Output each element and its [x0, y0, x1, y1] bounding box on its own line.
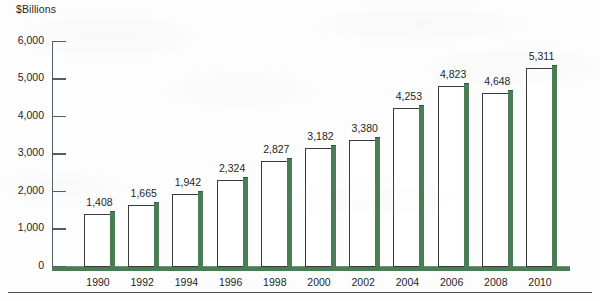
bar-item: 2,324 — [217, 42, 248, 267]
y-axis-tick: 2,000 — [52, 191, 66, 192]
y-axis-tick: 5,000 — [52, 78, 66, 79]
bar-value-label: 2,827 — [263, 143, 289, 155]
x-axis-label: 2010 — [528, 276, 551, 288]
bar-item: 4,648 — [482, 42, 513, 267]
chart-screenshot: $Billions 01,0002,0003,0004,0005,0006,00… — [0, 0, 600, 301]
bar-body — [482, 93, 508, 267]
x-axis-label: 1992 — [131, 276, 154, 288]
y-axis-tick-label: 5,000 — [18, 71, 44, 83]
y-axis-tick: 6,000 — [52, 41, 66, 42]
bar-shadow — [110, 211, 115, 267]
bar-body — [128, 205, 154, 267]
bar-shadow — [508, 90, 513, 267]
y-axis-tick: 0 — [52, 266, 66, 267]
bar-value-label: 5,311 — [529, 50, 555, 62]
bar-value-label: 4,823 — [440, 68, 466, 80]
y-axis-tick-label: 1,000 — [18, 221, 44, 233]
bar-item: 1,665 — [128, 42, 159, 267]
y-axis-tick-label: 6,000 — [18, 34, 44, 46]
bar-value-label: 2,324 — [219, 162, 245, 174]
bar-value-label: 3,380 — [352, 122, 378, 134]
y-axis-tick-label: 0 — [38, 259, 44, 271]
bar-body — [393, 108, 419, 267]
bar-item: 2,827 — [261, 42, 292, 267]
x-axis-label: 1990 — [86, 276, 109, 288]
bar-body — [172, 194, 198, 267]
bar-item: 5,311 — [526, 42, 557, 267]
x-axis-label: 2008 — [484, 276, 507, 288]
plot-area: 01,0002,0003,0004,0005,0006,000 1,4081,6… — [52, 42, 570, 267]
bar-item: 3,380 — [349, 42, 380, 267]
x-axis-baseline — [52, 267, 570, 271]
bar-item: 1,408 — [84, 42, 115, 267]
x-axis-label: 1994 — [175, 276, 198, 288]
bar-item: 3,182 — [305, 42, 336, 267]
x-axis-label: 2006 — [440, 276, 463, 288]
bar-shadow — [552, 65, 557, 267]
bar-body — [84, 214, 110, 267]
bar-item: 4,823 — [438, 42, 469, 267]
bar-shadow — [198, 191, 203, 267]
bar-body — [305, 148, 331, 267]
bar-shadow — [419, 105, 424, 267]
y-axis-title: $Billions — [16, 3, 56, 15]
bar-value-label: 4,253 — [396, 90, 422, 102]
y-axis-tick: 1,000 — [52, 228, 66, 229]
bar-body — [349, 140, 375, 267]
bar-item: 1,942 — [172, 42, 203, 267]
bar-body — [261, 161, 287, 267]
bar-body — [217, 180, 243, 267]
bar-item: 4,253 — [393, 42, 424, 267]
y-axis-tick-label: 2,000 — [18, 184, 44, 196]
bar-value-label: 1,408 — [86, 196, 112, 208]
bar-body — [526, 68, 552, 267]
y-axis-tick: 4,000 — [52, 116, 66, 117]
bar-shadow — [154, 202, 159, 267]
bar-value-label: 1,942 — [175, 176, 201, 188]
y-axis-tick-label: 3,000 — [18, 146, 44, 158]
bar-shadow — [375, 137, 380, 267]
bar-value-label: 4,648 — [484, 75, 510, 87]
x-axis-label: 2002 — [352, 276, 375, 288]
x-axis-label: 1998 — [263, 276, 286, 288]
y-axis-tick-label: 4,000 — [18, 109, 44, 121]
bar-shadow — [287, 158, 292, 267]
bar-body — [438, 86, 464, 267]
y-axis-line — [52, 42, 53, 267]
bar-shadow — [464, 83, 469, 267]
y-axis-tick: 3,000 — [52, 153, 66, 154]
bar-shadow — [331, 145, 336, 267]
x-axis-label: 1996 — [219, 276, 242, 288]
bar-value-label: 3,182 — [307, 130, 333, 142]
x-axis-label: 2000 — [307, 276, 330, 288]
bar-value-label: 1,665 — [131, 187, 157, 199]
bottom-divider — [8, 292, 592, 293]
bar-shadow — [243, 177, 248, 267]
x-axis-label: 2004 — [396, 276, 419, 288]
